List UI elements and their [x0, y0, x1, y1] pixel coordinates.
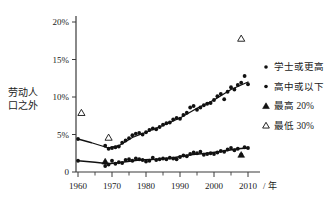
- data-point: [243, 145, 247, 149]
- data-point: [219, 149, 223, 153]
- data-point: [110, 159, 114, 163]
- data-point: [131, 133, 135, 137]
- chart-page: 05%10%15%20% 196019701980199020002010 劳动…: [0, 0, 333, 209]
- data-point: [134, 132, 138, 136]
- data-point: [161, 123, 165, 127]
- data-point: [137, 131, 141, 135]
- data-point: [246, 82, 250, 86]
- data-point: [212, 98, 216, 102]
- data-point: [239, 81, 243, 85]
- data-point: [199, 106, 203, 110]
- legend-item[interactable]: 高中或以下: [264, 81, 324, 92]
- data-point: [209, 151, 213, 155]
- data-point: [154, 127, 158, 131]
- data-point: [144, 130, 148, 134]
- data-point: [131, 159, 135, 163]
- data-point: [212, 152, 216, 156]
- data-point: [103, 144, 107, 148]
- data-point: [205, 152, 209, 156]
- data-point: [151, 127, 155, 131]
- legend-label: 学士或更高: [274, 61, 324, 72]
- legend-dot-icon: [264, 85, 268, 89]
- x-tick-label: 2010: [239, 181, 258, 191]
- data-point: [188, 152, 192, 156]
- x-tick-label: 1990: [171, 181, 190, 191]
- x-tick-label: 2000: [205, 181, 224, 191]
- data-point: [229, 85, 233, 89]
- y-tick-label: 20%: [53, 17, 70, 27]
- data-point: [144, 160, 148, 164]
- y-tick-label: 15%: [53, 55, 70, 65]
- data-point: [158, 157, 162, 161]
- legend-label: 最低 30%: [274, 120, 314, 131]
- y-tick-label: 0: [65, 167, 70, 177]
- y-axis-label-line: 劳动人: [8, 86, 38, 98]
- data-point: [233, 88, 237, 92]
- data-point: [120, 161, 124, 165]
- data-point: [137, 157, 141, 161]
- data-point: [226, 90, 230, 94]
- x-tick-label: 1980: [137, 181, 156, 191]
- data-point: [219, 92, 223, 96]
- data-point: [168, 121, 172, 125]
- data-point: [165, 157, 169, 161]
- data-point: [120, 141, 124, 145]
- data-point: [185, 111, 189, 115]
- legend-dot-icon: [264, 65, 268, 69]
- data-point: [209, 101, 213, 105]
- legend-label: 高中或以下: [274, 81, 324, 92]
- x-axis-unit: / 年: [263, 180, 277, 191]
- data-point: [117, 160, 121, 164]
- legend-label: 最高 20%: [274, 100, 314, 111]
- y-tick-label: 10%: [53, 92, 70, 102]
- data-point: [216, 94, 220, 98]
- data-point: [236, 83, 240, 87]
- data-point: [171, 157, 175, 161]
- data-point: [114, 145, 118, 149]
- data-point: [233, 148, 237, 152]
- data-point: [148, 128, 152, 132]
- data-point: [114, 162, 118, 166]
- data-point: [141, 133, 145, 137]
- data-point: [148, 159, 152, 163]
- data-point: [154, 158, 158, 162]
- data-point: [171, 118, 175, 122]
- data-point: [124, 158, 128, 162]
- data-point: [178, 155, 182, 159]
- data-point: [243, 74, 247, 78]
- data-point: [188, 106, 192, 110]
- data-point: [192, 104, 196, 108]
- data-point: [205, 102, 209, 106]
- x-tick-label: 1960: [69, 181, 88, 191]
- y-axis-label-line: 口之外: [8, 99, 38, 111]
- data-point: [195, 151, 199, 155]
- x-axis-unit-label: / 年: [263, 180, 277, 191]
- data-point: [236, 147, 240, 151]
- data-point: [185, 154, 189, 158]
- data-point: [107, 147, 111, 151]
- data-point: [127, 157, 131, 161]
- data-point: [76, 137, 80, 141]
- data-point: [175, 116, 179, 120]
- data-point: [110, 146, 114, 150]
- data-point: [76, 159, 80, 163]
- data-point: [134, 157, 138, 161]
- x-tick-label: 1970: [103, 181, 122, 191]
- data-point: [246, 146, 250, 150]
- data-point: [222, 150, 226, 154]
- data-point: [216, 151, 220, 155]
- data-point: [202, 153, 206, 157]
- data-point: [222, 97, 226, 101]
- data-point: [178, 117, 182, 121]
- data-point: [168, 156, 172, 160]
- data-point: [192, 151, 196, 155]
- data-point: [199, 150, 203, 154]
- data-point: [182, 113, 186, 117]
- data-point: [182, 154, 186, 158]
- data-point: [202, 103, 206, 107]
- y-tick-label: 5%: [57, 130, 70, 140]
- data-point: [161, 157, 165, 161]
- data-point: [124, 139, 128, 143]
- data-point: [226, 148, 230, 152]
- legend-item[interactable]: 学士或更高: [264, 61, 324, 72]
